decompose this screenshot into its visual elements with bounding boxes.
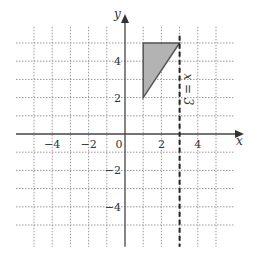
coordinate-plane: xyx = 3−4−22442−2−40 (0, 0, 254, 261)
x-tick-label: 2 (158, 138, 165, 151)
y-axis-label: y (113, 7, 121, 21)
dashed-line-label: x = 3 (181, 73, 195, 105)
y-tick-label: −2 (105, 164, 121, 177)
shaded-triangle (143, 43, 179, 98)
y-tick-label: 4 (114, 55, 121, 68)
x-tick-label: −4 (44, 138, 60, 151)
x-tick-label: −2 (80, 138, 96, 151)
x-axis-label: x (236, 134, 243, 148)
y-tick-label: −4 (105, 201, 121, 214)
y-tick-label: 2 (114, 92, 121, 105)
y-axis-arrow-icon (121, 14, 129, 23)
x-tick-label: 4 (194, 138, 201, 151)
origin-label: 0 (116, 138, 123, 151)
